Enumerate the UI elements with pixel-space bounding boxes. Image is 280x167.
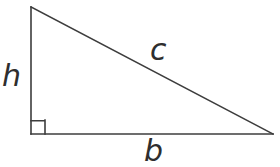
right-angle-marker-icon bbox=[31, 120, 45, 134]
side-label-h: h bbox=[2, 61, 21, 91]
triangle-figure bbox=[0, 0, 280, 167]
side-label-b: b bbox=[144, 136, 163, 166]
side-label-c: c bbox=[150, 35, 167, 65]
hypotenuse-line bbox=[31, 7, 273, 134]
right-triangle-diagram: h c b bbox=[0, 0, 280, 167]
